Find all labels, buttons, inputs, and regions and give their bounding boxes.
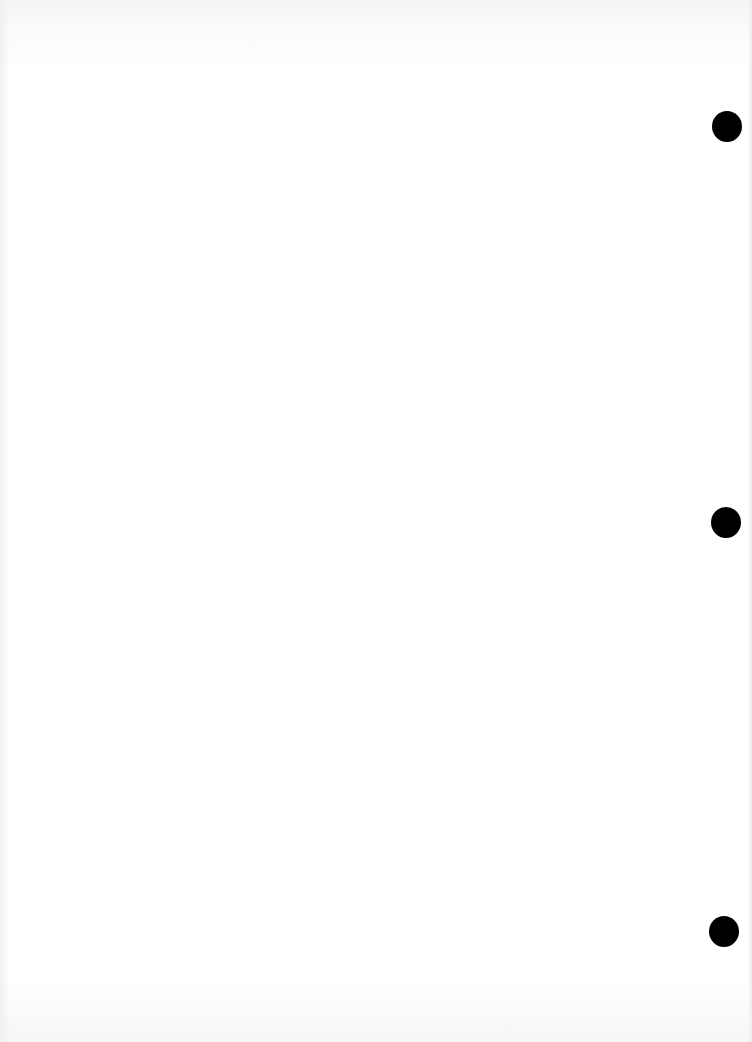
- scanned-page: [0, 0, 752, 1042]
- page-edge-shadow-left: [0, 0, 10, 1042]
- punch-hole-top: [712, 111, 742, 142]
- page-edge-shadow-right: [748, 0, 752, 1042]
- punch-hole-middle: [711, 507, 741, 538]
- punch-hole-bottom: [709, 916, 739, 947]
